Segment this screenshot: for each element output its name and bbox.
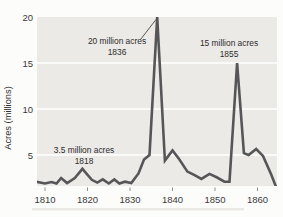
x-axis-tick-labels: 181018201830184018501860: [34, 194, 268, 205]
y-tick-label-5: 5: [28, 150, 33, 161]
chart-page: 181018201830184018501860 5101520 Acres (…: [0, 0, 283, 217]
land-sales-line-chart: 181018201830184018501860 5101520 Acres (…: [0, 0, 283, 217]
annotation-1818-year: 1818: [75, 156, 94, 166]
y-axis-tick-labels: 5101520: [22, 12, 33, 161]
x-tick-label-1830: 1830: [119, 194, 140, 205]
annotation-1855-text: 15 million acres: [200, 38, 258, 48]
y-tick-label-15: 15: [22, 58, 33, 69]
annotation-1836-year: 1836: [108, 47, 127, 57]
y-tick-label-20: 20: [22, 12, 33, 23]
x-tick-label-1860: 1860: [247, 194, 268, 205]
x-tick-label-1850: 1850: [204, 194, 225, 205]
annotation-1855-year: 1855: [220, 49, 239, 59]
annotation-1818-text: 3.5 million acres: [54, 145, 115, 155]
y-tick-label-10: 10: [22, 104, 33, 115]
scan-artifact-strip: [32, 208, 244, 210]
x-tick-label-1810: 1810: [34, 194, 55, 205]
annotation-1836-text: 20 million acres: [88, 36, 146, 46]
y-axis-title: Acres (millions): [3, 86, 13, 150]
x-axis-tick-marks: [45, 188, 258, 192]
x-tick-label-1840: 1840: [162, 194, 183, 205]
x-tick-label-1820: 1820: [77, 194, 98, 205]
